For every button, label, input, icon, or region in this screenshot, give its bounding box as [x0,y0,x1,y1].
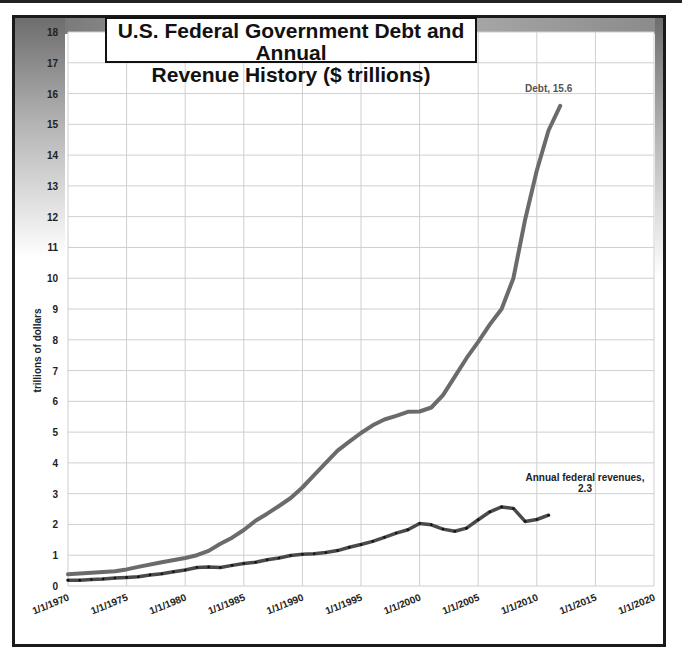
revenue-point [149,574,152,577]
y-tick-label: 17 [47,58,59,69]
y-tick-label: 9 [52,304,58,315]
revenue-point [125,576,128,579]
revenue-point [196,566,199,569]
revenue-point [325,551,328,554]
x-tick-label: 1/1/2020 [617,591,658,616]
revenue-point [219,566,222,569]
y-tick-label: 7 [52,366,58,377]
y-tick-label: 3 [52,489,58,500]
revenue-point [360,543,363,546]
y-tick-label: 13 [47,181,59,192]
revenue-point [184,569,187,572]
revenue-point [67,579,70,582]
y-tick-label: 14 [47,150,59,161]
revenue-point [418,522,421,525]
revenue-point [114,577,117,580]
y-axis-ticks: 0123456789101112131415161718 [47,27,59,592]
revenue-point [301,553,304,556]
revenue-point [442,528,445,531]
revenue-point [254,561,257,564]
revenue-point [172,571,175,574]
revenue-point [278,557,281,560]
revenue-point [243,562,246,565]
revenue-point [102,578,105,581]
revenue-point [90,578,93,581]
y-tick-label: 12 [47,212,59,223]
line-chart: 0123456789101112131415161718 1/1/19701/1… [0,0,682,661]
y-tick-label: 6 [52,396,58,407]
revenue-point [465,527,468,530]
revenue-point [477,519,480,522]
chart-title-line-2: Revenue History ($ trillions) [107,64,475,86]
x-tick-label: 1/1/2015 [558,591,599,616]
y-tick-label: 1 [52,550,58,561]
y-tick-label: 10 [47,273,59,284]
y-tick-label: 11 [47,242,58,253]
revenue-point [336,549,339,552]
revenue-point [536,518,539,521]
revenue-point [430,523,433,526]
x-tick-label: 1/1/2000 [382,591,423,616]
y-tick-label: 4 [52,458,58,469]
revenue-point [231,564,234,567]
x-axis-ticks: 1/1/19701/1/19751/1/19801/1/19851/1/1990… [31,591,658,616]
revenue-point [78,579,81,582]
y-tick-label: 0 [52,581,58,592]
revenue-point [395,532,398,535]
y-tick-label: 8 [52,335,58,346]
revenue-point [453,530,456,533]
y-tick-label: 5 [52,427,58,438]
revenue-point [547,514,550,517]
chart-title: U.S. Federal Government Debt and Annual … [105,17,477,63]
revenue-point [500,506,503,509]
revenue-label-line-1: Annual federal revenues, [515,472,655,483]
x-tick-label: 1/1/1985 [206,591,247,616]
revenue-label-line-2: 2.3 [515,483,655,494]
x-tick-label: 1/1/1990 [265,591,306,616]
revenue-point [266,559,269,562]
revenue-data-label: Annual federal revenues, 2.3 [515,472,655,494]
revenue-point [289,554,292,557]
y-axis-label: trillions of dollars [32,296,43,406]
x-tick-label: 1/1/2010 [499,591,540,616]
revenue-point [489,511,492,514]
y-tick-label: 2 [52,519,58,530]
revenue-point [371,540,374,543]
revenue-point [383,536,386,539]
revenue-point [348,546,351,549]
revenue-point [207,566,210,569]
x-tick-label: 1/1/2005 [441,591,482,616]
debt-data-label: Debt, 15.6 [525,83,572,94]
revenue-point [407,528,410,531]
chart-title-line-1: U.S. Federal Government Debt and Annual [107,20,475,64]
revenue-point [313,552,316,555]
revenue-point [524,520,527,523]
x-tick-label: 1/1/1980 [148,591,189,616]
y-tick-label: 18 [47,27,59,38]
y-tick-label: 16 [47,89,59,100]
revenue-point [160,572,163,575]
x-tick-label: 1/1/1975 [89,591,130,616]
revenue-point [137,575,140,578]
x-tick-label: 1/1/1995 [324,591,365,616]
revenue-point [512,507,515,510]
x-tick-label: 1/1/1970 [31,591,72,616]
y-tick-label: 15 [47,119,59,130]
